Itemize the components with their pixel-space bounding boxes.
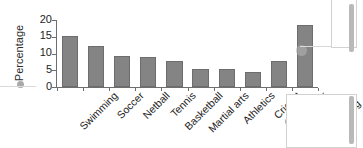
x-tick-mark: [240, 88, 241, 91]
bar[interactable]: [62, 36, 78, 87]
y-tick-mark: [52, 37, 56, 38]
cropped-panel-bottom-right[interactable]: [286, 94, 357, 148]
bar[interactable]: [140, 57, 156, 87]
bar[interactable]: [271, 61, 287, 87]
bar[interactable]: [245, 72, 261, 87]
bar[interactable]: [192, 69, 208, 87]
x-tick-mark: [318, 88, 319, 91]
plot-area: [57, 20, 318, 87]
bar[interactable]: [114, 56, 130, 87]
y-axis-tick-labels: 05101520: [30, 18, 52, 88]
scrollbar-thumb-top[interactable]: [349, 4, 354, 52]
y-tick-label: 10: [40, 47, 52, 58]
bar[interactable]: [88, 46, 104, 87]
x-tick-mark: [188, 88, 189, 91]
y-tick-mark: [52, 87, 56, 88]
x-tick-mark: [135, 88, 136, 91]
y-tick-label: 5: [46, 63, 52, 74]
x-tick-mark: [83, 88, 84, 91]
y-tick-label: 20: [40, 13, 52, 24]
x-tick-mark: [109, 88, 110, 91]
y-tick-mark: [52, 70, 56, 71]
y-tick-label: 0: [46, 80, 52, 91]
x-tick-mark: [266, 88, 267, 91]
bar[interactable]: [166, 61, 182, 87]
x-tick-mark: [161, 88, 162, 91]
hairline-left: [0, 86, 36, 87]
y-tick-label: 15: [40, 30, 52, 41]
scrollbar-thumb-bottom[interactable]: [349, 96, 354, 144]
bar[interactable]: [297, 25, 313, 87]
bar[interactable]: [219, 69, 235, 87]
y-tick-mark: [52, 20, 56, 21]
x-tick-mark: [57, 88, 58, 91]
x-tick-mark: [214, 88, 215, 91]
y-tick-mark: [52, 54, 56, 55]
x-tick-mark: [292, 88, 293, 91]
